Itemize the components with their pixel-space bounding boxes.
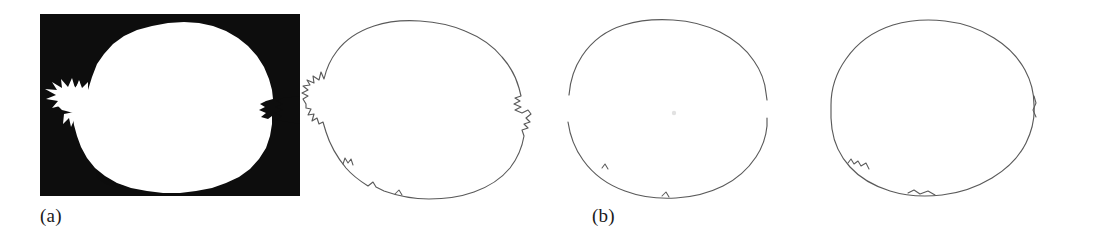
contour-bump-lower-left-c (602, 164, 608, 169)
panel-d-canvas (810, 0, 1097, 242)
panel-c-canvas (550, 0, 820, 242)
contour-bump-lower-left-b (343, 158, 353, 165)
contour-arc-lower-c (568, 118, 767, 198)
centre-speck-c (672, 111, 676, 115)
panel-c-gapped-contour: (c) (550, 0, 820, 242)
panel-b-raw-contour: (b) (290, 0, 560, 242)
panel-label-a: (a) (40, 206, 62, 225)
contour-ripple-bottom-d (908, 190, 935, 195)
contour-outline-d (831, 20, 1034, 196)
contour-outline-b (302, 21, 531, 199)
figure-root: (a) (b) (c) (0, 0, 1097, 242)
contour-arc-upper-c (569, 20, 767, 100)
panel-d-final-contour: (d) (810, 0, 1097, 242)
panel-b-canvas (290, 0, 560, 242)
panel-a-binary-image: (a) (0, 0, 300, 242)
contour-notch-bottom-c (662, 192, 669, 197)
